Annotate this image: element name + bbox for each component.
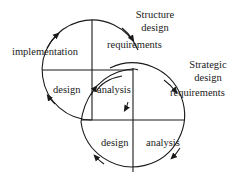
label-structure-line1: Structure	[136, 9, 175, 20]
label-upper-implementation: implementation	[12, 46, 79, 57]
label-upper-requirements: requirements	[107, 39, 162, 50]
arrow-design-icon	[48, 96, 55, 104]
transition-arc	[81, 69, 138, 122]
lower-cycle	[81, 63, 185, 172]
label-upper-design: design	[53, 84, 81, 95]
label-upper-analysis: analysis	[97, 84, 131, 95]
arrow-lower-analysis-icon	[172, 148, 180, 158]
label-structure-line2: design	[141, 22, 169, 33]
labels: implementation requirements design analy…	[12, 9, 227, 148]
label-strategic-line2: design	[194, 72, 222, 83]
label-lower-design: design	[101, 137, 129, 148]
spiral-diagram: implementation requirements design analy…	[0, 0, 236, 193]
label-strategic-line1: Strategic	[189, 59, 227, 70]
label-lower-analysis: analysis	[146, 137, 180, 148]
label-lower-requirements: requirements	[170, 87, 225, 98]
arrow-inner-analysis-icon	[125, 102, 128, 110]
